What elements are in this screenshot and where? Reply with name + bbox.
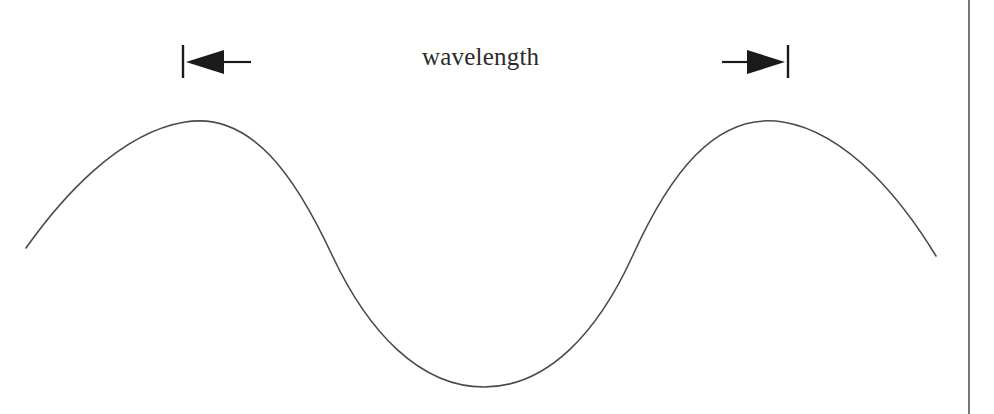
wavelength-figure: wavelength <box>0 0 994 414</box>
left-arrowhead-icon <box>186 50 224 74</box>
wavelength-label: wavelength <box>422 42 539 72</box>
wave-curve <box>26 121 936 387</box>
right-arrowhead-icon <box>747 50 785 74</box>
